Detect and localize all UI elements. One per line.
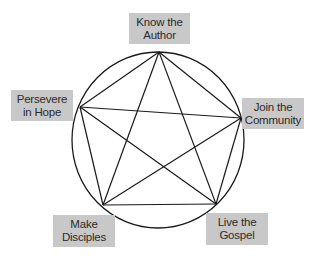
label-line-2: in Hope — [23, 106, 61, 119]
pentagram-diagram: Know the Author Join the Community Live … — [0, 0, 312, 258]
label-know-the-author: Know the Author — [129, 13, 190, 44]
label-make-disciples: Make Disciples — [53, 215, 115, 247]
diag-author-disciples — [103, 52, 159, 205]
diag-hope-gospel — [80, 107, 216, 204]
label-line-2: Gospel — [219, 229, 254, 242]
label-line-2: Author — [143, 29, 176, 42]
diag-hope-community — [80, 107, 241, 118]
label-line-1: Join the — [254, 101, 293, 114]
label-live-the-gospel: Live the Gospel — [206, 213, 268, 245]
label-line-1: Persevere — [17, 93, 68, 106]
outer-circle — [72, 52, 244, 228]
edge-hope-author — [80, 52, 159, 107]
label-line-1: Live the — [218, 216, 257, 229]
diag-community-disciples — [103, 118, 241, 205]
label-line-1: Know the — [136, 16, 182, 29]
label-persevere-in-hope: Persevere in Hope — [11, 90, 73, 121]
edge-disciples-hope — [80, 107, 103, 205]
label-line-2: Community — [245, 114, 301, 127]
label-line-1: Make — [70, 218, 97, 231]
edge-gospel-disciples — [103, 204, 216, 205]
label-join-the-community: Join the Community — [242, 98, 304, 129]
label-line-2: Disciples — [62, 231, 106, 244]
